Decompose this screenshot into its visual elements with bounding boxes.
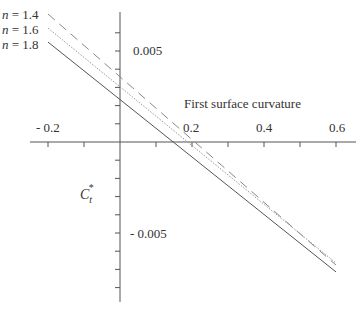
y-tick-label-neg: - 0.005 bbox=[130, 226, 167, 241]
chart: n = 1.4 n = 1.6 n = 1.8 0.005 - 0.005 - … bbox=[0, 0, 362, 313]
x-ticks bbox=[48, 142, 336, 147]
x-tick-label-04: 0.4 bbox=[256, 120, 273, 135]
series-line-solid bbox=[48, 42, 336, 272]
x-tick-label-06: 0.6 bbox=[329, 120, 346, 135]
series-label-n16: n = 1.6 bbox=[2, 22, 39, 37]
x-axis-label: First surface curvature bbox=[184, 96, 301, 111]
series-label-n14: n = 1.4 bbox=[2, 7, 39, 22]
series-label-n18: n = 1.8 bbox=[2, 37, 39, 52]
x-tick-label-neg02: - 0.2 bbox=[36, 120, 60, 135]
x-tick-label-02: 0.2 bbox=[183, 120, 199, 135]
axes bbox=[30, 12, 356, 302]
y-axis-label: Ct* bbox=[80, 182, 93, 205]
y-tick-label-pos: 0.005 bbox=[133, 43, 162, 58]
y-ticks bbox=[115, 33, 120, 288]
